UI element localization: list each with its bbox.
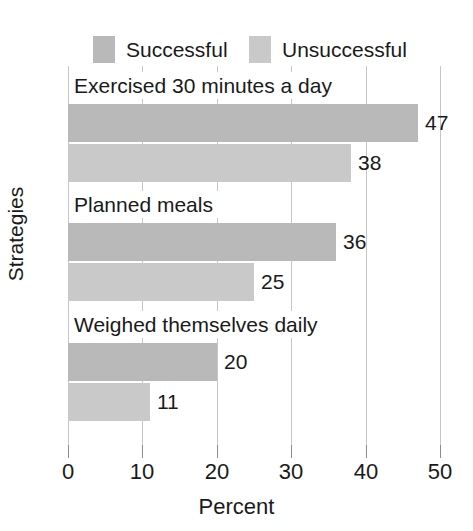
x-axis-tick-label: 40 [354,461,378,483]
bar-value-label: 25 [261,263,284,301]
legend-label-unsuccessful: Unsuccessful [282,39,407,60]
category-label: Planned meals [72,191,219,218]
x-axis-tick [217,445,218,458]
chart-legend: Successful Unsuccessful [0,32,473,66]
x-axis-tick-label: 50 [428,461,452,483]
x-axis-tick [142,445,143,458]
legend-item-unsuccessful: Unsuccessful [249,32,407,66]
plot-area: 473836252011 [68,66,440,445]
bar-successful [68,343,217,381]
x-axis-tick-label: 20 [205,461,229,483]
legend-label-successful: Successful [126,39,228,60]
legend-swatch-successful [93,36,115,63]
bar-value-label: 38 [358,144,381,182]
category-label: Weighed themselves daily [72,311,324,338]
y-axis-title: Strategies [4,144,28,324]
bar-value-label: 20 [224,343,247,381]
bar-value-label: 47 [425,104,448,142]
x-axis-tick [68,445,69,458]
x-axis-tick [440,445,441,458]
bar-successful [68,104,418,142]
bar-successful [68,223,336,261]
bar-value-label: 36 [343,223,366,261]
bar-unsuccessful [68,263,254,301]
legend-item-successful: Successful [93,32,228,66]
bar-unsuccessful [68,144,351,182]
x-axis-tick-label: 0 [62,461,74,483]
category-label: Exercised 30 minutes a day [72,72,338,99]
x-axis-tick [291,445,292,458]
bar-unsuccessful [68,383,150,421]
bar-chart: Successful Unsuccessful 473836252011 010… [0,0,473,531]
x-axis-title: Percent [0,494,473,520]
bar-value-label: 11 [157,383,179,421]
legend-swatch-unsuccessful [249,36,271,63]
x-axis-tick [366,445,367,458]
x-axis-tick-label: 10 [130,461,154,483]
x-axis-tick-label: 30 [279,461,303,483]
